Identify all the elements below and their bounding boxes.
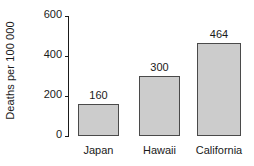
bar-value-hawaii: 300: [139, 62, 180, 73]
bar-value-japan: 160: [78, 90, 119, 101]
bar-group-japan: 160: [78, 16, 119, 136]
x-label-california: California: [189, 145, 249, 156]
y-axis-title-text: Deaths per 100 000: [5, 21, 16, 119]
bar-group-california: 464: [197, 16, 241, 136]
bar-group-hawaii: 300: [139, 16, 180, 136]
plot-area: 160 300 464: [69, 16, 254, 136]
bar-california[interactable]: [197, 43, 241, 136]
y-tick-mark-0: [65, 136, 69, 137]
bar-chart: Deaths per 100 000 600 400 200 0 160 300: [0, 0, 254, 166]
x-label-hawaii: Hawaii: [139, 145, 180, 156]
y-tick-label-0: 0: [56, 129, 62, 140]
y-axis-title: Deaths per 100 000: [0, 0, 20, 140]
y-axis: 600 400 200 0: [22, 10, 69, 142]
bar-hawaii[interactable]: [139, 76, 180, 136]
y-tick-label-200: 200: [44, 89, 62, 100]
bar-value-california: 464: [197, 29, 241, 40]
bar-japan[interactable]: [78, 104, 119, 136]
y-tick-label-400: 400: [44, 49, 62, 60]
y-tick-label-600: 600: [44, 9, 62, 20]
x-axis-labels: Japan Hawaii California: [69, 145, 254, 163]
x-label-japan: Japan: [78, 145, 119, 156]
